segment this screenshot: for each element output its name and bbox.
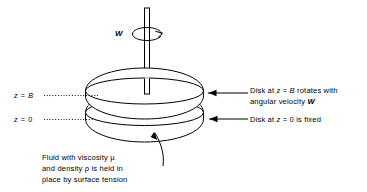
annotation-bottom-disk-line1: Disk at z = 0 is fixed <box>250 114 321 125</box>
annotation-fluid-line3: place by surface tension <box>42 174 128 185</box>
callout-arrowhead-bottom <box>210 116 218 122</box>
callout-arrow-top-disk <box>208 90 248 96</box>
annotation-fluid-line2: and density ρ is held in <box>42 163 128 174</box>
diagram-figure: z = B z = 0 W Disk at z = B rotates with… <box>0 0 367 192</box>
top-disk <box>86 68 204 119</box>
angular-velocity-label: W <box>115 29 123 40</box>
shaft-base <box>145 78 150 94</box>
annotation-top-disk: Disk at z = B rotates with angular veloc… <box>250 85 338 107</box>
axis-label-top: z = B <box>14 91 34 102</box>
annotation-bottom-disk: Disk at z = 0 is fixed <box>250 114 321 125</box>
axis-label-bottom: z = 0 <box>14 115 33 126</box>
callout-arrowhead-top <box>209 90 217 96</box>
annotation-top-disk-line1: Disk at z = B rotates with <box>250 85 338 96</box>
annotation-top-disk-line2: angular velocity W <box>250 96 338 107</box>
annotation-fluid: Fluid with viscosity µ and density ρ is … <box>42 152 128 185</box>
callout-arrow-bottom-disk <box>209 116 248 122</box>
annotation-fluid-line1: Fluid with viscosity µ <box>42 152 128 163</box>
